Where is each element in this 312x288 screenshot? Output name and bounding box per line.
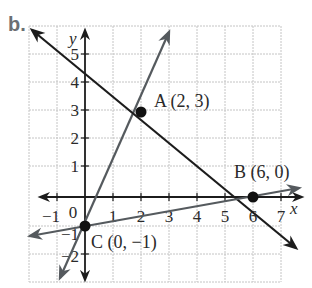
point-label-B: B (6, 0) — [234, 162, 290, 183]
point-label-A: A (2, 3) — [154, 91, 210, 112]
point-A — [136, 107, 147, 118]
y-tick-label: 3 — [71, 101, 80, 120]
x-tick-label: 4 — [193, 207, 202, 226]
x-tick-label: 7 — [277, 207, 286, 226]
y-axis-label: y — [67, 29, 77, 48]
x-axis-label: x — [289, 199, 298, 218]
x-tick-label: 1 — [109, 207, 118, 226]
graph: −1 1 2 3 4 5 6 7 5 4 3 2 1 −1 −2 0 x y — [0, 0, 312, 288]
origin-label: 0 — [69, 203, 78, 222]
point-labels: A (2, 3) B (6, 0) C (0, −1) — [91, 91, 290, 253]
y-tick-label: 1 — [71, 157, 80, 176]
part-label: b. — [8, 13, 26, 36]
point-label-C: C (0, −1) — [91, 232, 157, 253]
y-tick-label: 2 — [71, 129, 80, 148]
coordinate-plane-figure: b. — [0, 0, 312, 288]
x-tick-label: 5 — [221, 207, 230, 226]
y-tick-label: 4 — [71, 73, 80, 92]
point-B — [248, 192, 259, 203]
point-C — [80, 221, 91, 232]
x-tick-label: −1 — [42, 207, 60, 226]
y-tick-labels: 5 4 3 2 1 −1 −2 — [61, 45, 80, 266]
axes — [40, 30, 302, 280]
